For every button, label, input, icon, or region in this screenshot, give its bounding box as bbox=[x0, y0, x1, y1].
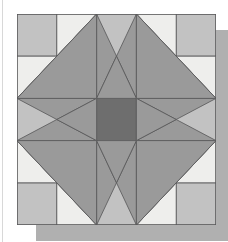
quilt-patch-corner-br bbox=[176, 183, 216, 225]
quilt-block-svg bbox=[17, 14, 216, 225]
quilt-block-diagram bbox=[17, 14, 216, 225]
quilt-patch-corner-bl bbox=[17, 183, 57, 225]
quilt-patch-center-square bbox=[97, 98, 137, 140]
page-canvas bbox=[0, 0, 228, 242]
quilt-patch-corner-tr bbox=[176, 14, 216, 56]
page-margin-rule bbox=[2, 0, 3, 242]
patch-layer bbox=[17, 14, 216, 225]
quilt-patch-corner-tl bbox=[17, 14, 57, 56]
